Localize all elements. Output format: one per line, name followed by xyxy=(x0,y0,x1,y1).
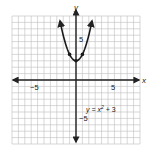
coordinate-graph: x y −5 5 5 −5 y = x2 + 3 xyxy=(0,0,152,147)
x-tick-pos5: 5 xyxy=(111,83,115,92)
x-axis-label: x xyxy=(141,76,147,85)
marked-point xyxy=(74,59,78,63)
y-tick-neg5: −5 xyxy=(79,114,88,123)
y-tick-pos5: 5 xyxy=(79,35,83,44)
equation-label: y = x2 + 3 xyxy=(85,104,116,114)
equation-suffix: + 3 xyxy=(104,106,116,113)
marked-point xyxy=(68,53,72,57)
x-tick-neg5: −5 xyxy=(30,83,39,92)
marked-point xyxy=(81,53,85,57)
y-axis-label: y xyxy=(73,3,79,12)
equation-prefix: y = x xyxy=(85,106,101,114)
